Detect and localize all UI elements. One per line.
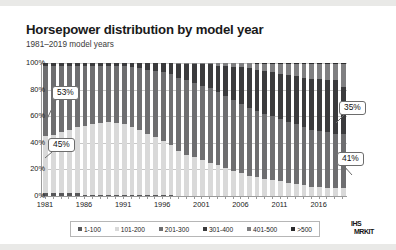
x-axis-tick-mark xyxy=(194,196,195,199)
bar-segment-401-500 xyxy=(309,64,314,79)
bar-segment-301-400 xyxy=(59,63,64,66)
legend-swatch-icon xyxy=(203,227,207,231)
x-axis-tick-mark xyxy=(154,196,155,199)
bar-segment-301-400 xyxy=(106,63,111,66)
bar-segment-201-300 xyxy=(106,66,111,122)
bar-segment-101-200 xyxy=(255,177,260,196)
y-axis-tick-label: 80% xyxy=(15,86,45,93)
legend-item-401-500[interactable]: 401-500 xyxy=(247,226,277,233)
x-axis-tick-mark xyxy=(319,196,320,199)
bar-segment-301-400 xyxy=(90,63,95,66)
bar-2010 xyxy=(270,63,275,196)
bar-2005 xyxy=(231,63,236,196)
legend-swatch-icon xyxy=(78,227,82,231)
bar-segment-201-300 xyxy=(255,111,260,178)
x-axis-tick-mark xyxy=(45,196,46,199)
bar-segment->500 xyxy=(341,63,346,64)
bar-segment-401-500 xyxy=(325,64,330,80)
bar-segment->500 xyxy=(309,63,314,64)
x-axis-tick-mark xyxy=(248,196,249,199)
legend-item-301-400[interactable]: 301-400 xyxy=(203,226,233,233)
bar-segment-101-200 xyxy=(106,122,111,195)
bar-segment-201-300 xyxy=(122,66,127,125)
y-axis-tick-label: 40% xyxy=(15,139,45,146)
bar-1994 xyxy=(145,63,150,196)
callout-53: 53% xyxy=(52,86,79,100)
bar-segment-301-400 xyxy=(294,76,299,124)
bar-segment-201-300 xyxy=(247,108,252,176)
bar-segment-401-500 xyxy=(239,63,244,67)
bar-2008 xyxy=(255,63,260,196)
x-axis-tick-mark xyxy=(209,196,210,199)
bar-segment-101-200 xyxy=(145,134,150,195)
x-axis-tick-mark xyxy=(123,196,124,199)
bar-segment-201-300 xyxy=(176,78,181,151)
bar-segment-301-400 xyxy=(122,63,127,66)
bar-segment-301-400 xyxy=(137,63,142,68)
x-axis-tick-mark xyxy=(76,196,77,199)
chart-legend: 1-100101-200201-300301-400401-500>500 xyxy=(70,221,320,237)
bar-segment-301-400 xyxy=(223,66,228,97)
bar-segment-201-300 xyxy=(325,132,330,188)
x-axis-tick-mark xyxy=(264,196,265,199)
bar-segment-101-200 xyxy=(114,123,119,195)
x-axis-tick-mark xyxy=(92,196,93,199)
bar-2014 xyxy=(302,63,307,196)
bar-2013 xyxy=(294,63,299,196)
bar-segment-301-400 xyxy=(325,80,330,132)
logo-line-2: MRKIT xyxy=(351,228,379,236)
bar-1995 xyxy=(153,63,158,196)
bar-segment-101-200 xyxy=(200,160,205,196)
legend-swatch-icon xyxy=(159,227,163,231)
bar-segment-201-300 xyxy=(223,96,228,168)
legend-label: 301-400 xyxy=(209,226,233,233)
bar-segment->500 xyxy=(286,63,291,64)
bar-segment-101-200 xyxy=(278,181,283,196)
bar-segment-301-400 xyxy=(286,75,291,122)
legend-item-101-200[interactable]: 101-200 xyxy=(115,226,145,233)
bar-2019 xyxy=(341,63,346,196)
bar-segment-101-200 xyxy=(231,171,236,196)
chart-card: Horsepower distribution by model year 19… xyxy=(0,6,396,244)
bar-segment-301-400 xyxy=(317,79,322,131)
legend-swatch-icon xyxy=(291,227,295,231)
x-axis-tick-mark xyxy=(61,196,62,199)
bar-1993 xyxy=(137,63,142,196)
bar-segment-101-200 xyxy=(309,187,314,196)
bar-segment-101-200 xyxy=(130,127,135,195)
x-axis-tick-mark xyxy=(334,196,335,199)
y-axis-tick-label: 100% xyxy=(15,59,45,66)
legend-item-1-100[interactable]: 1-100 xyxy=(78,226,101,233)
x-axis-tick-mark xyxy=(342,196,343,199)
x-axis-tick-mark xyxy=(201,196,202,199)
bar-segment-201-300 xyxy=(137,68,142,129)
bar-1983 xyxy=(59,63,64,196)
x-axis-tick-mark xyxy=(170,196,171,199)
bar-segment-301-400 xyxy=(333,80,338,133)
x-axis-tick-mark xyxy=(326,196,327,199)
legend-item->500[interactable]: >500 xyxy=(291,226,312,233)
bar-segment-301-400 xyxy=(75,63,80,66)
plot-area xyxy=(41,63,347,197)
bar-segment-201-300 xyxy=(286,122,291,183)
bar-segment-101-200 xyxy=(270,180,275,196)
bar-segment-401-500 xyxy=(184,63,189,64)
bar-2017 xyxy=(325,63,330,196)
bar-2003 xyxy=(216,63,221,196)
x-axis-tick-mark xyxy=(84,196,85,199)
legend-item-201-300[interactable]: 201-300 xyxy=(159,226,189,233)
bar-segment-101-200 xyxy=(302,185,307,196)
bar-2009 xyxy=(262,63,267,196)
x-axis-tick-label: 1991 xyxy=(103,201,143,208)
bar-segment-301-400 xyxy=(278,74,283,119)
bar-segment-201-300 xyxy=(278,119,283,182)
x-axis-tick-mark xyxy=(139,196,140,199)
bar-segment-101-200 xyxy=(122,124,127,194)
bar-segment-201-300 xyxy=(208,88,213,162)
bar-1987 xyxy=(90,63,95,196)
bar-1991 xyxy=(122,63,127,196)
bar-segment-301-400 xyxy=(255,70,260,111)
bar-segment-301-400 xyxy=(114,63,119,66)
bar-2006 xyxy=(239,63,244,196)
bar-segment-201-300 xyxy=(302,127,307,186)
